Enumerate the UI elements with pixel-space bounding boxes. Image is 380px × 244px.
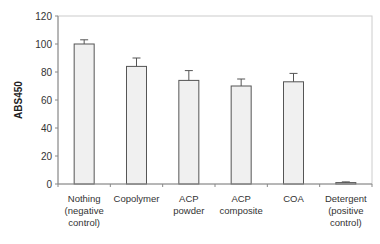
- bar-chart: 020406080100120 Nothing(negativecontrol)…: [0, 0, 380, 244]
- x-category-label: Nothing: [68, 193, 101, 204]
- x-category-label: (positive: [328, 205, 363, 216]
- bar-rect: [74, 44, 94, 184]
- bars: [74, 40, 356, 184]
- bar: [127, 58, 147, 184]
- y-tick-label: 40: [41, 123, 53, 134]
- bar: [74, 40, 94, 184]
- x-category-label: control): [68, 217, 100, 228]
- y-tick-label: 0: [46, 179, 52, 190]
- x-category-label: powder: [173, 205, 204, 216]
- y-tick-label: 60: [41, 95, 53, 106]
- y-tick-label: 120: [35, 11, 52, 22]
- y-axis-label: ABS450: [13, 81, 24, 119]
- y-tick-label: 80: [41, 67, 53, 78]
- x-category-label: (negative: [65, 205, 104, 216]
- bar-rect: [179, 80, 199, 184]
- bar-rect: [231, 86, 251, 184]
- bar-rect: [284, 82, 304, 184]
- bar-rect: [127, 66, 147, 184]
- x-category-label: ACP: [179, 193, 199, 204]
- x-category-label: composite: [220, 205, 263, 216]
- x-category-label: control): [330, 217, 362, 228]
- x-axis: Nothing(negativecontrol)CopolymerACPpowd…: [58, 184, 372, 228]
- x-category-label: Detergent: [325, 193, 367, 204]
- x-category-label: COA: [283, 193, 304, 204]
- bar: [231, 79, 251, 184]
- plot-frame: [58, 16, 372, 184]
- y-tick-label: 20: [41, 151, 53, 162]
- bar: [179, 71, 199, 184]
- x-category-label: ACP: [231, 193, 251, 204]
- y-axis: 020406080100120: [35, 11, 58, 190]
- y-tick-label: 100: [35, 39, 52, 50]
- bar: [284, 73, 304, 184]
- x-category-label: Copolymer: [114, 193, 160, 204]
